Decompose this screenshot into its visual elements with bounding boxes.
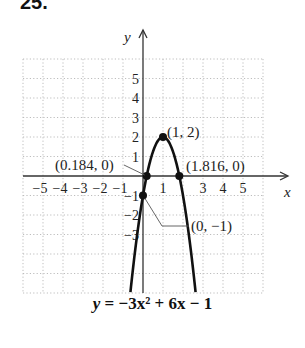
svg-text:5: 5	[132, 72, 139, 87]
svg-text:x: x	[283, 184, 291, 200]
svg-text:4: 4	[132, 91, 139, 106]
svg-text:−2: −2	[93, 181, 108, 196]
svg-text:−5: −5	[33, 181, 48, 196]
svg-text:(1, 2): (1, 2)	[167, 124, 200, 141]
svg-text:−2: −2	[124, 208, 139, 223]
svg-text:(0.184, 0): (0.184, 0)	[55, 157, 114, 174]
equation-eq: =	[100, 294, 118, 313]
svg-text:3: 3	[132, 111, 139, 126]
svg-text:−3: −3	[73, 181, 88, 196]
svg-text:1: 1	[160, 181, 167, 196]
svg-text:−4: −4	[53, 181, 68, 196]
equation-rhs: −3x² + 6x − 1	[119, 294, 213, 313]
svg-text:5: 5	[240, 181, 247, 196]
svg-text:−1: −1	[124, 189, 139, 204]
svg-text:y: y	[122, 29, 131, 45]
svg-text:1: 1	[132, 150, 139, 165]
svg-text:(1.816, 0): (1.816, 0)	[186, 158, 245, 175]
equation-caption: y = −3x² + 6x − 1	[0, 294, 305, 314]
svg-text:4: 4	[220, 181, 227, 196]
svg-text:(0, −1): (0, −1)	[191, 218, 232, 235]
svg-text:2: 2	[132, 130, 139, 145]
svg-text:3: 3	[200, 181, 207, 196]
